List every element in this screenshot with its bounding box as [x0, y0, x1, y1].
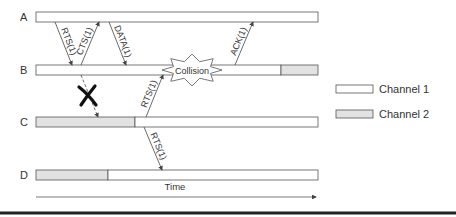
collision-label: Collision [175, 66, 209, 76]
station-row-c: C [20, 116, 318, 128]
message-rts1: RTS(1) [144, 127, 169, 170]
time-axis: Time [36, 181, 316, 197]
channel-1-segment [36, 12, 318, 22]
channel-2-segment [281, 65, 318, 75]
message-label: ACK(1) [228, 26, 249, 57]
legend-item-channel-2: Channel 2 [336, 108, 429, 120]
time-label: Time [165, 181, 186, 192]
channel-2-segment [36, 170, 108, 180]
legend-swatch [336, 85, 373, 93]
legend-swatch [336, 110, 373, 118]
station-row-d: D [20, 169, 318, 181]
station-label: B [20, 64, 27, 76]
channel-1-segment [108, 170, 318, 180]
message-label: DATA(1) [112, 24, 134, 59]
station-label: D [20, 169, 28, 181]
legend: Channel 1Channel 2 [336, 83, 429, 120]
rts-cts-timing-diagram: ABCD RTS(1)CTS(1)DATA(1)ACK(1)RTS(1)RTS(… [0, 0, 456, 217]
station-label: C [20, 116, 28, 128]
message-rts1: RTS(1) [139, 75, 163, 117]
message-rts1: RTS(1) [55, 22, 79, 65]
station-row-a: A [20, 11, 318, 23]
channel-1-segment [36, 65, 281, 75]
legend-item-channel-1: Channel 1 [336, 83, 429, 95]
blocked-x-mark [79, 86, 96, 105]
message-label: CTS(1) [74, 26, 94, 57]
message-ack1: ACK(1) [228, 22, 253, 65]
message-data1: DATA(1) [109, 22, 134, 65]
legend-label: Channel 2 [379, 108, 429, 120]
message-label: RTS(1) [148, 131, 168, 161]
message-arrows: RTS(1)CTS(1)DATA(1)ACK(1)RTS(1)RTS(1) [55, 22, 253, 170]
message-cts1: CTS(1) [74, 22, 99, 65]
station-label: A [20, 11, 28, 23]
collision-burst: Collision [162, 54, 222, 86]
channel-1-segment [135, 117, 318, 127]
message-label: RTS(1) [139, 79, 159, 109]
channel-2-segment [36, 117, 135, 127]
legend-label: Channel 1 [379, 83, 429, 95]
